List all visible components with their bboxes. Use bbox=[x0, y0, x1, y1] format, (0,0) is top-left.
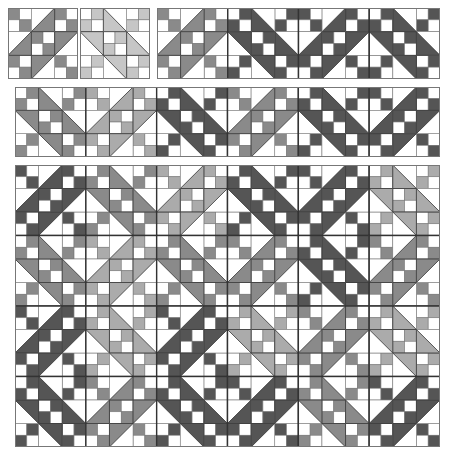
quilt-block bbox=[299, 8, 370, 79]
quilt-block bbox=[86, 236, 157, 307]
quilt-block bbox=[15, 87, 86, 157]
quilt-block bbox=[80, 8, 150, 79]
quilt-block bbox=[228, 87, 299, 157]
quilt-block bbox=[298, 306, 369, 377]
quilt-block bbox=[369, 377, 440, 448]
quilt-block bbox=[86, 87, 157, 157]
quilt-block bbox=[369, 87, 440, 157]
quilt-block bbox=[228, 236, 299, 307]
quilt-block bbox=[157, 165, 228, 236]
quilt-block bbox=[369, 8, 440, 79]
quilt-block bbox=[157, 377, 228, 448]
quilt-block bbox=[228, 165, 299, 236]
quilt-block bbox=[369, 306, 440, 377]
quilt-block bbox=[157, 8, 228, 79]
quilt-block bbox=[298, 236, 369, 307]
quilt-block bbox=[15, 165, 86, 236]
quilt-panel-single-block-backslash bbox=[80, 8, 150, 79]
quilt-block bbox=[86, 377, 157, 448]
quilt-block bbox=[15, 306, 86, 377]
quilt-block bbox=[8, 8, 78, 79]
quilt-block bbox=[15, 377, 86, 448]
quilt-block bbox=[228, 377, 299, 448]
quilt-panel-strip-six-blocks bbox=[15, 87, 440, 157]
quilt-panel-quilt-grid bbox=[15, 165, 440, 447]
quilt-block bbox=[157, 306, 228, 377]
quilt-block bbox=[86, 306, 157, 377]
quilt-block bbox=[15, 236, 86, 307]
quilt-block bbox=[157, 87, 228, 157]
quilt-panel-single-block-slash bbox=[8, 8, 78, 79]
quilt-block bbox=[369, 165, 440, 236]
quilt-block bbox=[298, 377, 369, 448]
quilt-block bbox=[298, 87, 369, 157]
quilt-block bbox=[228, 306, 299, 377]
quilt-block bbox=[298, 165, 369, 236]
quilt-block bbox=[157, 236, 228, 307]
quilt-panel-strip-four-blocks bbox=[157, 8, 440, 79]
quilt-block bbox=[369, 236, 440, 307]
quilt-block bbox=[86, 165, 157, 236]
quilt-block bbox=[228, 8, 299, 79]
